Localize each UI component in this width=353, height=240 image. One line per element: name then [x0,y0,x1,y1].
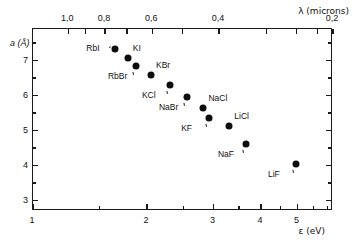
top-minor-tick [85,29,86,34]
bottom-minor-tick [183,206,184,209]
plot-area: RbIKIRbBrKBrKClNaBrNaClKFLiClNaFLiF [32,28,332,210]
left-tick-label-7: 7 [16,55,28,64]
top-tick-1,0 [68,29,69,34]
data-point-lif [292,161,299,168]
bottom-minor-tick [238,206,239,209]
bottom-tick-3 [213,204,214,209]
data-point-kf [206,115,213,122]
data-point-label-kbr: KBr [156,61,170,70]
data-point-label-ki: KI [133,44,141,53]
bottom-tick-2 [146,204,147,209]
data-point-label-lif: LiF [268,170,280,179]
left-minor-tick [33,147,36,148]
data-point-kbr [148,71,155,78]
right-minor-tick [328,112,331,113]
leader-line-naf [242,150,244,153]
figure-scatter-lattice-vs-gap: a (Å) λ (microns) ε (eV) 1,00,80,60,40,2… [0,0,353,240]
right-minor-tick [328,182,331,183]
data-point-label-naf: NaF [218,150,234,159]
top-tick-label-0,2: 0,2 [326,14,339,23]
data-point-label-nacl: NaCl [208,94,227,103]
data-point-label-rbbr: RbBr [108,72,127,81]
y-axis-title: a (Å) [10,38,30,48]
bottom-minor-tick [327,206,328,209]
data-point-nabr [183,93,190,100]
data-point-licl [226,122,233,129]
top-axis-title-text: λ (microns) [298,6,349,16]
bottom-minor-tick [280,206,281,209]
top-minor-tick [317,29,318,34]
bottom-minor-tick [313,206,314,209]
top-tick-label-1,0: 1,0 [61,14,74,23]
leader-line-kcl [166,91,168,94]
bottom-tick-1 [32,204,33,209]
top-minor-tick [126,29,127,34]
bottom-tick-label-4: 4 [257,216,262,225]
left-tick-7 [33,60,38,61]
left-minor-tick [33,42,36,43]
data-point-naf [242,140,249,147]
leader-line-kf [206,124,208,127]
right-minor-tick [328,147,331,148]
top-minor-tick [266,29,267,34]
top-minor-tick [296,29,297,34]
left-minor-tick [33,200,36,201]
data-point-label-rbi: RbI [86,44,99,53]
bottom-tick-label-5: 5 [294,216,299,225]
right-minor-tick [328,200,331,201]
top-tick-label-0,4: 0,4 [212,14,225,23]
right-minor-tick [328,42,331,43]
left-tick-label-6: 6 [16,90,28,99]
left-minor-tick [33,77,36,78]
data-point-rbi [112,45,119,52]
data-point-label-nabr: NaBr [159,103,178,112]
bottom-axis-title: ε (eV) [299,226,325,236]
right-tick-7 [326,60,331,61]
bottom-minor-tick [99,206,100,209]
top-tick-label-0,6: 0,6 [145,14,158,23]
left-tick-label-3: 3 [16,195,28,204]
top-tick-0,6 [152,29,153,34]
top-minor-tick [182,29,183,34]
left-minor-tick [33,182,36,183]
left-tick-4 [33,165,38,166]
left-tick-label-4: 4 [16,160,28,169]
bottom-axis-title-text: ε (eV) [299,226,325,236]
top-tick-0,2 [332,29,333,34]
bottom-tick-label-2: 2 [143,216,148,225]
right-minor-tick [328,77,331,78]
data-point-ki [124,55,131,62]
bottom-tick-label-1: 1 [29,216,34,225]
data-point-rbbr [132,62,139,69]
top-tick-0,4 [218,29,219,34]
bottom-tick-4 [260,204,261,209]
left-tick-5 [33,130,38,131]
left-tick-label-5: 5 [16,125,28,134]
y-axis-title-text: a (Å) [10,38,30,48]
leader-line-nabr [183,102,185,105]
leader-line-lif [292,170,294,173]
top-tick-0,8 [104,29,105,34]
top-tick-label-0,8: 0,8 [98,14,111,23]
right-tick-4 [326,165,331,166]
bottom-tick-label-3: 3 [210,216,215,225]
right-tick-6 [326,95,331,96]
data-point-label-licl: LiCl [234,112,249,121]
data-point-nacl [200,105,207,112]
leader-line-rbbr [132,72,134,75]
data-point-label-kcl: KCl [142,91,156,100]
left-minor-tick [33,112,36,113]
top-axis-title: λ (microns) [298,6,349,16]
data-point-kcl [166,82,173,89]
data-point-label-kf: KF [181,124,192,133]
left-tick-6 [33,95,38,96]
right-tick-5 [326,130,331,131]
bottom-tick-5 [297,204,298,209]
